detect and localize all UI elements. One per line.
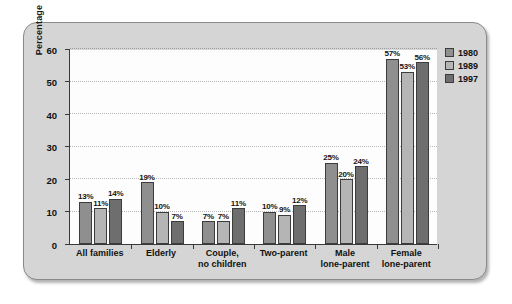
bar-value-label: 7% (218, 212, 229, 221)
x-axis-category-line: lone-parent (376, 259, 437, 270)
bar: 7% (171, 221, 184, 244)
bar-value-label: 9% (279, 205, 290, 214)
x-axis-category-label: Two-parent (253, 248, 314, 259)
bar: 20% (340, 179, 353, 244)
bar: 25% (325, 163, 338, 244)
bar-value-label: 13% (78, 192, 93, 201)
bar-group: 25%20%24% (325, 50, 368, 244)
plot-area: 0102030405060 13%11%14%19%10%7%7%7%11%10… (69, 50, 437, 245)
x-axis-category-label: All families (69, 248, 130, 259)
bar-value-label: 7% (171, 212, 182, 221)
bar-value-label: 25% (323, 153, 338, 162)
y-axis-tick-label: 0 (52, 239, 57, 250)
legend-item: 1989 (445, 60, 478, 71)
bar: 10% (156, 212, 169, 245)
bar-value-label: 20% (338, 170, 353, 179)
x-axis-category-label: Couple,no children (192, 248, 253, 270)
x-axis-category-line: Elderly (130, 248, 191, 259)
bar: 13% (79, 202, 92, 244)
chart-panel: Percentage 0102030405060 13%11%14%19%10%… (23, 22, 487, 280)
bar-value-label: 12% (292, 196, 307, 205)
bar: 7% (217, 221, 230, 244)
bar-value-label: 24% (353, 157, 368, 166)
y-axis-tick-label: 60 (46, 44, 57, 55)
y-axis-tick-label: 10 (46, 207, 57, 218)
x-axis-category-line: All families (69, 248, 130, 259)
y-axis-title: Percentage (32, 0, 46, 85)
gridline (70, 48, 437, 49)
legend-swatch-icon (445, 74, 454, 83)
y-axis-tick-label: 30 (46, 142, 57, 153)
x-axis-category-label: Femalelone-parent (376, 248, 437, 270)
bar-value-label: 10% (154, 202, 169, 211)
x-axis-category-line: Male (314, 248, 375, 259)
legend-item-label: 1997 (458, 74, 478, 84)
y-axis-tick-label: 40 (46, 109, 57, 120)
bar-value-label: 11% (93, 199, 108, 208)
bar: 56% (416, 62, 429, 244)
x-axis-category-label: Elderly (130, 248, 191, 259)
bar-group: 19%10%7% (141, 50, 184, 244)
bar: 57% (386, 59, 399, 244)
legend-swatch-icon (445, 61, 454, 70)
bar: 9% (278, 215, 291, 244)
bar: 14% (109, 199, 122, 245)
bar-value-label: 57% (385, 49, 400, 58)
bar-value-label: 14% (108, 189, 123, 198)
x-axis-category-line: Female (376, 248, 437, 259)
bar-value-label: 53% (400, 62, 415, 71)
x-axis-labels: All familiesElderlyCouple,no childrenTwo… (69, 248, 437, 280)
bar-value-label: 7% (203, 212, 214, 221)
y-axis-tick-label: 20 (46, 174, 57, 185)
bar-value-label: 56% (415, 53, 430, 62)
y-axis-tick-label: 50 (46, 77, 57, 88)
chart-legend: 198019891997 (445, 47, 478, 86)
bar: 53% (401, 72, 414, 244)
bar-value-label: 11% (231, 199, 246, 208)
bar-group: 13%11%14% (79, 50, 122, 244)
bar-group: 7%7%11% (202, 50, 245, 244)
bar-value-label: 19% (139, 173, 154, 182)
x-axis-category-line: no children (192, 259, 253, 270)
bar-value-label: 10% (262, 202, 277, 211)
bar-group: 10%9%12% (263, 50, 306, 244)
legend-swatch-icon (445, 48, 454, 57)
x-axis-tick (438, 244, 439, 249)
legend-item: 1980 (445, 47, 478, 58)
legend-item-label: 1980 (458, 48, 478, 58)
bar: 10% (263, 212, 276, 245)
x-axis-category-line: Couple, (192, 248, 253, 259)
legend-item: 1997 (445, 73, 478, 84)
x-axis-category-line: lone-parent (314, 259, 375, 270)
x-axis-category-label: Malelone-parent (314, 248, 375, 270)
bar: 7% (202, 221, 215, 244)
x-axis-category-line: Two-parent (253, 248, 314, 259)
bar: 24% (355, 166, 368, 244)
bars-layer: 13%11%14%19%10%7%7%7%11%10%9%12%25%20%24… (70, 50, 437, 244)
bar: 11% (232, 208, 245, 244)
bar-group: 57%53%56% (386, 50, 429, 244)
legend-item-label: 1989 (458, 61, 478, 71)
bar: 19% (141, 182, 154, 244)
bar: 12% (293, 205, 306, 244)
bar: 11% (94, 208, 107, 244)
plot-frame: 0102030405060 13%11%14%19%10%7%7%7%11%10… (69, 50, 437, 245)
